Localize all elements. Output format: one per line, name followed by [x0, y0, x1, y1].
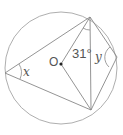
angle-y-label: y	[94, 50, 102, 64]
circle	[5, 12, 117, 124]
center-label: O	[49, 55, 58, 69]
angle-x-label: x	[23, 65, 30, 79]
angle-31-label: 31°	[72, 46, 92, 61]
center-point	[59, 62, 62, 65]
geometry-diagram: O 31° x y	[0, 0, 123, 135]
